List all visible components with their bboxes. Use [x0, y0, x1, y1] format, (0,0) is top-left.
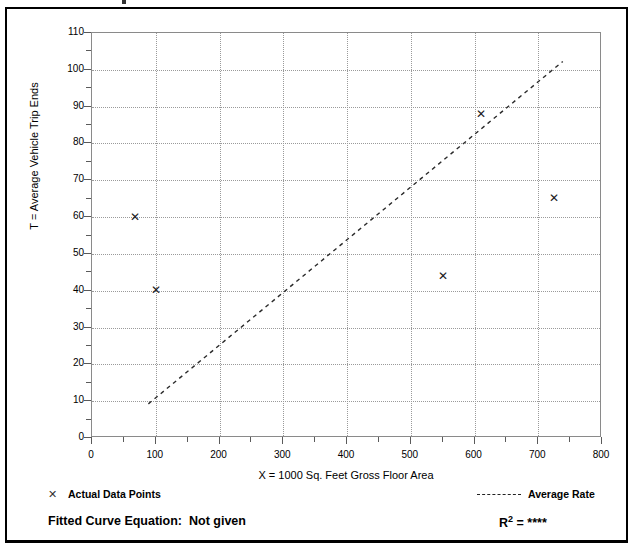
r2-prefix: R [499, 516, 508, 530]
y-axis-minor-tick [86, 161, 91, 162]
trendline-segment [148, 61, 562, 403]
x-axis-minor-tick [378, 437, 379, 442]
y-axis-tick [84, 142, 91, 143]
y-axis-minor-tick [86, 382, 91, 383]
legend-average-rate-label: Average Rate [528, 488, 595, 500]
y-axis-tick-label: 80 [44, 137, 84, 147]
x-axis-tick [282, 437, 283, 444]
r2-exponent: 2 [508, 514, 513, 524]
y-axis-tick [84, 253, 91, 254]
x-axis-tick [346, 437, 347, 444]
y-axis-tick [84, 69, 91, 70]
y-axis-minor-tick [86, 87, 91, 88]
r-squared-value: R2 = **** [499, 514, 547, 530]
y-axis-tick [84, 290, 91, 291]
y-axis-tick-label: 90 [44, 101, 84, 111]
y-axis-title: T = Average Vehicle Trip Ends [28, 56, 40, 256]
x-axis-tick-label: 0 [71, 449, 111, 460]
x-axis-minor-tick [187, 437, 188, 442]
x-axis-tick-label: 100 [135, 449, 175, 460]
scatter-chart: 0102030405060708090100110 01002003004005… [0, 0, 633, 549]
legend-dashed-line-icon [477, 494, 521, 495]
y-axis-tick-label: 70 [44, 174, 84, 184]
x-axis-tick [537, 437, 538, 444]
y-axis-tick-label: 30 [44, 322, 84, 332]
x-axis-tick [155, 437, 156, 444]
y-axis-tick-label: 40 [44, 285, 84, 295]
x-axis-tick-label: 200 [199, 449, 239, 460]
x-axis-tick-label: 600 [454, 449, 494, 460]
x-axis-tick [474, 437, 475, 444]
y-axis-minor-tick [86, 235, 91, 236]
y-axis-tick [84, 400, 91, 401]
y-axis-minor-tick [86, 271, 91, 272]
y-axis-tick [84, 106, 91, 107]
x-axis-tick [91, 437, 92, 444]
legend-x-marker-icon: ✕ [48, 488, 57, 501]
legend-actual-data-points-label: Actual Data Points [68, 488, 161, 500]
x-axis-minor-tick [250, 437, 251, 442]
y-axis-tick-label: 20 [44, 358, 84, 368]
x-axis-title: X = 1000 Sq. Feet Gross Floor Area [91, 469, 601, 481]
x-axis-tick-label: 300 [262, 449, 302, 460]
x-axis-minor-tick [123, 437, 124, 442]
y-axis-tick-label: 110 [44, 27, 84, 37]
x-axis-minor-tick [314, 437, 315, 442]
r2-value: = **** [517, 516, 547, 530]
x-axis-tick-label: 800 [581, 449, 621, 460]
y-axis-tick [84, 363, 91, 364]
y-axis-minor-tick [86, 345, 91, 346]
x-axis-tick-label: 700 [517, 449, 557, 460]
y-axis-tick [84, 179, 91, 180]
y-axis-tick [84, 327, 91, 328]
x-axis-minor-tick [569, 437, 570, 442]
y-axis-minor-tick [86, 50, 91, 51]
x-axis-tick [601, 437, 602, 444]
y-axis-minor-tick [86, 124, 91, 125]
x-axis-tick-label: 400 [326, 449, 366, 460]
y-axis-tick [84, 437, 91, 438]
y-axis-minor-tick [86, 198, 91, 199]
chart-page: 0102030405060708090100110 01002003004005… [0, 0, 633, 549]
y-axis-minor-tick [86, 419, 91, 420]
y-axis-tick-label: 100 [44, 64, 84, 74]
y-axis-tick-label: 0 [44, 432, 84, 442]
x-axis-tick [410, 437, 411, 444]
x-axis-minor-tick [505, 437, 506, 442]
fitted-curve-equation-text: Fitted Curve Equation: Not given [48, 514, 246, 528]
footer-divider [5, 540, 628, 543]
y-axis-minor-tick [86, 308, 91, 309]
legend-row-series: ✕ Actual Data Points Average Rate [18, 486, 618, 506]
y-axis-tick [84, 216, 91, 217]
x-axis-minor-tick [442, 437, 443, 442]
y-axis-tick-label: 50 [44, 248, 84, 258]
y-axis-tick-label: 10 [44, 395, 84, 405]
legend-row-equation: Fitted Curve Equation: Not given R2 = **… [18, 514, 618, 536]
x-axis-tick [219, 437, 220, 444]
average-rate-trendline [0, 0, 633, 549]
y-axis-tick [84, 32, 91, 33]
chart-legend: ✕ Actual Data Points Average Rate Fitted… [18, 486, 618, 540]
y-axis-tick-label: 60 [44, 211, 84, 221]
x-axis-tick-label: 500 [390, 449, 430, 460]
